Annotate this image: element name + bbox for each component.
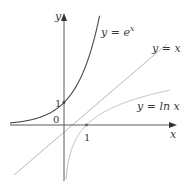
exp-label-base: y = e (100, 26, 130, 39)
identity-line-label: y = x (151, 42, 181, 55)
x-axis-label: x (170, 128, 177, 141)
ln-curve-label: y = ln x (136, 100, 181, 113)
y-tick-1-label: 1 (55, 98, 61, 109)
function-graph: y x 0 1 1 y = ex y = x y = ln x (0, 0, 189, 183)
x-tick-1-marker (85, 124, 88, 127)
exp-curve-label: y = ex (100, 24, 135, 39)
y-tick-1-marker (63, 101, 66, 104)
exp-label-exponent: x (130, 24, 135, 33)
origin-label: 0 (53, 114, 59, 125)
x-tick-1-label: 1 (84, 132, 90, 143)
y-axis-arrow-icon (61, 13, 67, 21)
y-axis-label: y (54, 10, 62, 23)
